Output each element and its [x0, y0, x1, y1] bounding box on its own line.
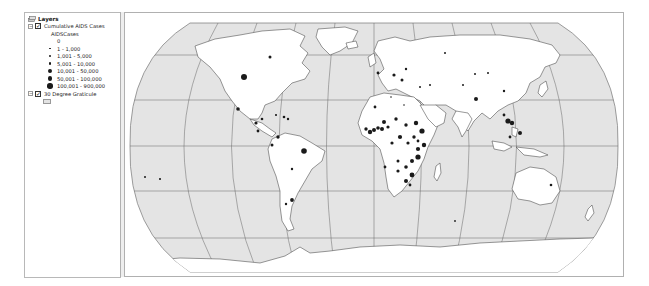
legend-class-5: 50,001 - 100,000 — [46, 75, 102, 82]
class-label: 1 - 1,000 — [57, 46, 80, 52]
map-view[interactable] — [125, 12, 624, 277]
legend-class-3: 5,001 - 10,000 — [46, 60, 95, 67]
layer-aids-cases[interactable]: − ✓ Cumulative AIDS Cases — [28, 23, 105, 30]
fill-patch-icon — [43, 99, 51, 104]
symbol-dot-icon — [49, 62, 52, 65]
layer-visibility-checkbox[interactable]: ✓ — [35, 91, 41, 97]
legend-class-1: 1 - 1,000 — [46, 45, 80, 52]
layer-name: Cumulative AIDS Cases — [44, 23, 105, 29]
layers-header: Layers — [28, 15, 59, 22]
class-label: 10,001 - 50,000 — [57, 68, 98, 74]
class-label: 50,001 - 100,000 — [57, 76, 102, 82]
field-label: AIDSCases — [51, 31, 79, 37]
collapse-icon[interactable]: − — [28, 24, 33, 29]
layer-graticule[interactable]: − ✓ 30 Degree Graticule — [28, 90, 96, 97]
layers-icon — [28, 15, 36, 22]
layer-visibility-checkbox[interactable]: ✓ — [35, 23, 41, 29]
layers-title: Layers — [38, 16, 59, 22]
table-of-contents-panel: Layers − ✓ Cumulative AIDS Cases AIDSCas… — [24, 12, 121, 278]
layer-name: 30 Degree Graticule — [44, 91, 96, 97]
symbol-dot-icon — [47, 83, 52, 88]
class-label: 0 — [57, 38, 60, 44]
graticule-legend-patch — [43, 98, 51, 105]
world-map — [125, 13, 624, 277]
symbol-dot-icon — [49, 48, 50, 49]
class-label: 1,001 - 5,000 — [57, 53, 92, 59]
symbol-dot-icon — [49, 55, 51, 57]
legend-class-4: 10,001 - 50,000 — [46, 68, 98, 75]
legend-class-6: 100,001 - 900,000 — [46, 83, 105, 90]
legend-class-2: 1,001 - 5,000 — [46, 53, 92, 60]
class-label: 5,001 - 10,000 — [57, 61, 95, 67]
symbol-dot-icon — [48, 69, 52, 73]
class-label: 100,001 - 900,000 — [57, 83, 105, 89]
symbol-dot-icon — [48, 76, 53, 81]
legend-field-name: AIDSCases — [51, 30, 79, 37]
legend-class-0: 0 — [46, 38, 60, 45]
collapse-icon[interactable]: − — [28, 91, 33, 96]
